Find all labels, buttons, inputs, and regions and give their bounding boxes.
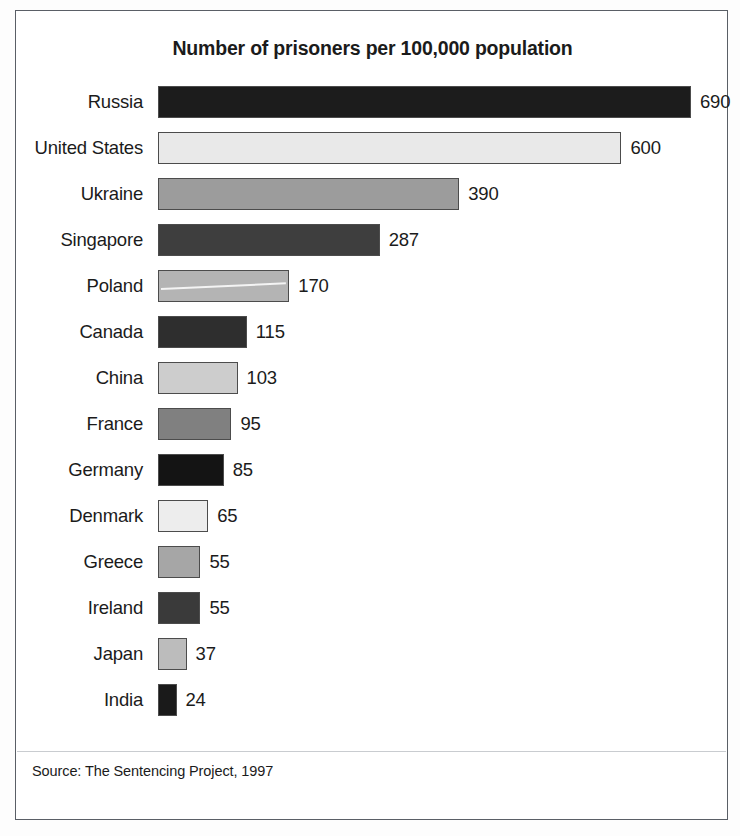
source-separator [17, 751, 726, 752]
bar-category-label: India [16, 677, 143, 723]
bar [158, 638, 187, 670]
bar [158, 500, 208, 532]
bar [158, 132, 621, 164]
bar-value-label: 600 [630, 125, 660, 171]
bar-row: Russia690 [16, 79, 729, 125]
bar-wrapper [158, 631, 187, 677]
bar [158, 270, 289, 302]
bar [158, 592, 200, 624]
bar [158, 454, 224, 486]
bar-value-label: 37 [196, 631, 216, 677]
bar-row: Poland170 [16, 263, 729, 309]
bar-value-label: 95 [240, 401, 260, 447]
bar-row: China103 [16, 355, 729, 401]
bar-category-label: France [16, 401, 143, 447]
bar-category-label: Denmark [16, 493, 143, 539]
bar-row: United States600 [16, 125, 729, 171]
bar-value-label: 55 [209, 585, 229, 631]
bar-wrapper [158, 125, 621, 171]
bar-category-label: Canada [16, 309, 143, 355]
bar [158, 684, 177, 716]
bar-category-label: Russia [16, 79, 143, 125]
bar [158, 408, 231, 440]
bar [158, 546, 200, 578]
bar [158, 224, 380, 256]
bar-value-label: 690 [700, 79, 730, 125]
bar-row: India24 [16, 677, 729, 723]
chart-title: Number of prisoners per 100,000 populati… [16, 37, 729, 60]
bar-wrapper [158, 171, 459, 217]
bar-category-label: Germany [16, 447, 143, 493]
bar-category-label: China [16, 355, 143, 401]
bar-wrapper [158, 585, 200, 631]
chart-frame: Number of prisoners per 100,000 populati… [15, 10, 728, 820]
bar-row: Denmark65 [16, 493, 729, 539]
bar-category-label: Japan [16, 631, 143, 677]
bar [158, 86, 691, 118]
bar-row: Ukraine390 [16, 171, 729, 217]
bar-value-label: 287 [389, 217, 419, 263]
bar [158, 178, 459, 210]
bar-row: Canada115 [16, 309, 729, 355]
bar-value-label: 65 [217, 493, 237, 539]
bar-wrapper [158, 263, 289, 309]
bar-wrapper [158, 309, 247, 355]
bar-category-label: Poland [16, 263, 143, 309]
bar-value-label: 24 [186, 677, 206, 723]
bar [158, 362, 238, 394]
bar-value-label: 103 [247, 355, 277, 401]
bar-wrapper [158, 447, 224, 493]
bar [158, 316, 247, 348]
bar-row: Japan37 [16, 631, 729, 677]
bar-value-label: 170 [298, 263, 328, 309]
bar-row: France95 [16, 401, 729, 447]
bar-category-label: Ukraine [16, 171, 143, 217]
bar-row: Ireland55 [16, 585, 729, 631]
bar-category-label: Greece [16, 539, 143, 585]
bar-wrapper [158, 355, 238, 401]
bar-value-label: 85 [233, 447, 253, 493]
bar-wrapper [158, 539, 200, 585]
bar-wrapper [158, 217, 380, 263]
bar-row: Germany85 [16, 447, 729, 493]
bar-chart-plot-area: Russia690United States600Ukraine390Singa… [16, 79, 729, 729]
bar-wrapper [158, 79, 691, 125]
bar-value-label: 390 [468, 171, 498, 217]
bar-row: Greece55 [16, 539, 729, 585]
source-note: Source: The Sentencing Project, 1997 [32, 763, 273, 779]
bar-category-label: Ireland [16, 585, 143, 631]
bar-wrapper [158, 677, 177, 723]
bar-row: Singapore287 [16, 217, 729, 263]
bar-wrapper [158, 401, 231, 447]
bar-category-label: United States [16, 125, 143, 171]
bar-wrapper [158, 493, 208, 539]
figure-container: Number of prisoners per 100,000 populati… [0, 0, 740, 836]
bar-value-label: 55 [209, 539, 229, 585]
bar-category-label: Singapore [16, 217, 143, 263]
bar-value-label: 115 [256, 309, 285, 355]
